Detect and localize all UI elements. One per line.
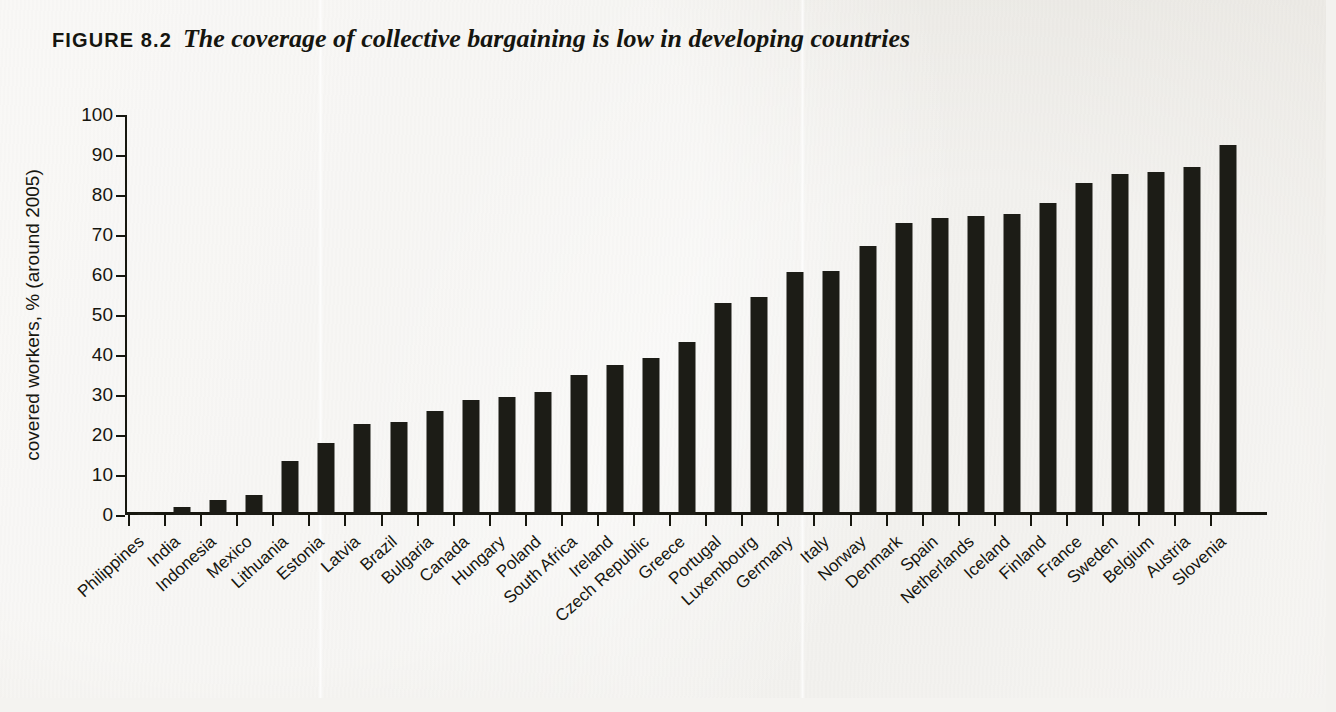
- y-axis-label: covered workers, % (around 2005): [22, 169, 44, 460]
- x-axis-tick-mark: [1138, 515, 1140, 526]
- y-axis-tick-60: 60: [67, 264, 125, 286]
- y-axis-tick-20: 20: [67, 424, 125, 446]
- x-axis-tick-mark: [308, 515, 310, 526]
- y-axis-tick-mark: [116, 275, 125, 277]
- bar: [1039, 203, 1056, 515]
- x-axis-tick-mark: [200, 515, 202, 526]
- x-axis-tick-mark: [417, 515, 419, 526]
- x-axis-tick-mark: [633, 515, 635, 526]
- x-axis-tick-mark: [669, 515, 671, 526]
- bar: [534, 392, 551, 515]
- y-axis-tick-label: 60: [92, 264, 113, 285]
- x-axis-tick-mark: [777, 515, 779, 526]
- y-axis-tick-10: 10: [67, 464, 125, 486]
- x-axis-tick-mark: [561, 515, 563, 526]
- bar: [1076, 183, 1093, 515]
- x-axis-tick-mark: [705, 515, 707, 526]
- y-axis-tick-label: 100: [81, 104, 113, 125]
- bar: [282, 461, 299, 515]
- bar: [462, 400, 479, 515]
- x-axis-tick-mark: [813, 515, 815, 526]
- bar: [1003, 214, 1020, 515]
- y-axis-tick-label: 20: [92, 424, 113, 445]
- x-axis-tick-mark: [1066, 515, 1068, 526]
- figure-caption: The coverage of collective bargaining is…: [183, 24, 910, 53]
- y-axis-tick-label: 0: [102, 504, 113, 525]
- y-axis-tick-label: 30: [92, 384, 113, 405]
- bar: [390, 422, 407, 515]
- y-axis-tick-mark: [116, 435, 125, 437]
- bar: [787, 272, 804, 515]
- x-axis-tick-mark: [128, 515, 130, 526]
- y-axis-tick-0: 0: [67, 504, 125, 526]
- x-axis-tick-mark: [381, 515, 383, 526]
- page-edge-bottom: [0, 698, 1336, 712]
- bar: [1220, 145, 1237, 515]
- y-axis-tick-mark: [116, 355, 125, 357]
- bar: [570, 375, 587, 515]
- y-axis-tick-label: 50: [92, 304, 113, 325]
- y-axis-tick-80: 80: [67, 184, 125, 206]
- x-axis-tick-mark: [886, 515, 888, 526]
- x-axis-tick-mark: [922, 515, 924, 526]
- bar: [174, 507, 191, 515]
- y-axis-tick-mark: [116, 395, 125, 397]
- bar: [967, 216, 984, 515]
- bar: [823, 271, 840, 515]
- y-axis-tick-40: 40: [67, 344, 125, 366]
- x-axis-tick-mark: [453, 515, 455, 526]
- y-axis-tick-label: 70: [92, 224, 113, 245]
- y-axis-tick-mark: [116, 315, 125, 317]
- x-axis-tick-mark: [741, 515, 743, 526]
- bar: [931, 218, 948, 515]
- x-axis-tick-mark: [994, 515, 996, 526]
- x-axis-tick-mark: [1174, 515, 1176, 526]
- bar: [1148, 172, 1165, 515]
- y-axis-tick-70: 70: [67, 224, 125, 246]
- x-axis-tick-mark: [525, 515, 527, 526]
- x-axis-tick-mark: [344, 515, 346, 526]
- bar: [895, 223, 912, 515]
- x-axis-tick-mark: [489, 515, 491, 526]
- bar: [210, 500, 227, 515]
- x-axis-tick-mark: [1210, 515, 1212, 526]
- x-axis-tick-mark: [236, 515, 238, 526]
- bar: [859, 246, 876, 515]
- bar: [318, 443, 335, 515]
- y-axis-tick-label: 40: [92, 344, 113, 365]
- x-axis-tick-mark: [850, 515, 852, 526]
- y-axis-tick-90: 90: [67, 144, 125, 166]
- bar: [498, 397, 515, 515]
- y-axis-tick-50: 50: [67, 304, 125, 326]
- x-axis-tick-mark: [272, 515, 274, 526]
- bar: [354, 424, 371, 515]
- bar: [679, 342, 696, 515]
- y-axis-tick-mark: [116, 155, 125, 157]
- y-axis-tick-mark: [116, 195, 125, 197]
- y-axis-tick-mark: [116, 475, 125, 477]
- page-edge-right: [1326, 0, 1336, 712]
- bar: [1184, 167, 1201, 515]
- y-axis-tick-mark: [116, 235, 125, 237]
- x-axis-tick-mark: [597, 515, 599, 526]
- bar: [138, 513, 155, 515]
- y-axis-tick-label: 80: [92, 184, 113, 205]
- y-axis-tick-100: 100: [67, 104, 125, 126]
- bar: [246, 495, 263, 515]
- bar: [1112, 174, 1129, 515]
- bar: [751, 297, 768, 515]
- chart-plot-area: covered workers, % (around 2005) 0102030…: [125, 115, 1265, 515]
- bar: [643, 358, 660, 515]
- x-axis-tick-mark: [958, 515, 960, 526]
- y-axis-line: [125, 115, 127, 515]
- figure-number: FIGURE 8.2: [52, 29, 172, 51]
- bar: [715, 303, 732, 515]
- y-axis-tick-30: 30: [67, 384, 125, 406]
- x-axis-tick-mark: [1102, 515, 1104, 526]
- y-axis-tick-label: 90: [92, 144, 113, 165]
- x-axis-tick-mark: [164, 515, 166, 526]
- bar: [607, 365, 624, 515]
- y-axis-tick-mark: [116, 515, 125, 517]
- y-axis-tick-label: 10: [92, 464, 113, 485]
- x-axis-tick-mark: [1030, 515, 1032, 526]
